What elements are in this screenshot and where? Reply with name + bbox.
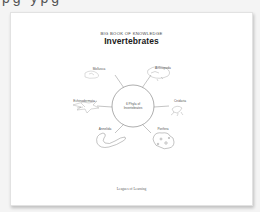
branch-label-mollusca: Mollusca	[93, 67, 106, 71]
branch-label-porifera: Porifera	[157, 127, 168, 131]
publisher-footer: Leagues of Learning	[11, 187, 252, 191]
cut-off-header-text: pg ypg	[0, 0, 260, 6]
branch-label-annelida: Annelida	[99, 127, 111, 131]
branch-label-echinodermata: Echinodermata	[73, 99, 94, 103]
jellyfish-icon	[171, 106, 183, 116]
branch-label-cnidaria: Cnidaria	[174, 99, 186, 103]
book-page: BIG BOOK OF KNOWLEDGE Invertebrates	[10, 12, 253, 206]
center-label-line2: Invertebrates	[118, 106, 148, 110]
snail-icon	[85, 71, 99, 78]
center-label: 6 Phyla of Invertebrates	[118, 102, 148, 110]
branch-label-arthropoda: Arthropoda	[155, 66, 171, 70]
worm-icon	[97, 133, 126, 148]
sponge-icon	[153, 133, 174, 149]
